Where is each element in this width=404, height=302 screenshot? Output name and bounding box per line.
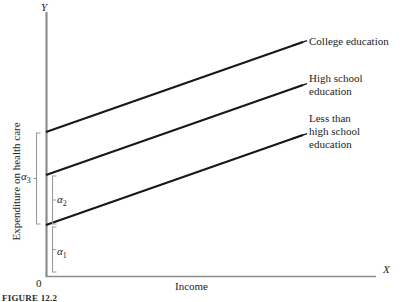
series-label-line: Less than — [309, 112, 360, 125]
figure-caption: FIGURE 12.2 — [2, 293, 57, 302]
series-label-high-school-education: High school education — [309, 72, 362, 98]
alpha-subscript: 2 — [63, 199, 67, 208]
intercept-label-alpha2: α2 — [57, 193, 67, 209]
series-label-college-education: College education — [309, 35, 389, 48]
alpha-subscript: 1 — [63, 251, 67, 260]
intercept-label-alpha1: α1 — [57, 245, 67, 261]
series-label-less-than-high-school-education: Less than high school education — [309, 112, 360, 151]
series-label-line: high school — [309, 125, 360, 138]
alpha-subscript: 3 — [27, 176, 31, 185]
series-label-line: High school — [309, 72, 362, 85]
origin-label: 0 — [36, 277, 42, 290]
intercept-label-alpha3: α3 — [21, 170, 31, 186]
series-leader-less-than-high-school-education — [293, 134, 307, 139]
series-line-less-than-high-school-education — [46, 135, 303, 225]
series-label-line: education — [309, 85, 362, 98]
x-axis-title: Income — [175, 280, 208, 293]
figure-container: Y X 0 Income Expenditure on health care … — [0, 0, 404, 302]
y-axis-letter: Y — [41, 1, 47, 14]
series-leader-high-school-education — [293, 84, 307, 89]
series-leader-college-education — [293, 41, 307, 46]
series-label-line: education — [309, 138, 360, 151]
brace-alpha3 — [37, 133, 41, 224]
series-label-line: College education — [309, 35, 389, 48]
series-line-college-education — [46, 42, 303, 132]
series-line-high-school-education — [46, 85, 303, 175]
x-axis-letter: X — [383, 263, 390, 276]
